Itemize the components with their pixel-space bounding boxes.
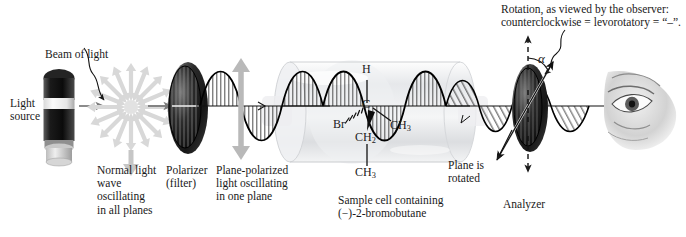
sample-cell-label: Sample cell containing (−)-2-bromobutane — [338, 194, 443, 220]
eye-icon — [604, 71, 676, 150]
atom-label-ch3-right: CH3 — [390, 119, 411, 135]
star-burst-icon — [87, 63, 175, 151]
polarizer-label: Polarizer (filter) — [166, 164, 208, 190]
plane-polarized-label: Plane-polarized light oscillating in one… — [216, 164, 288, 204]
normal-light-label: Normal light wave oscillating in all pla… — [97, 164, 156, 217]
plane-rotated-label: Plane is rotated — [448, 159, 484, 185]
plane-rotated-pointer — [497, 130, 512, 160]
ch2-text: CH — [355, 130, 372, 144]
polarizer-disc-icon — [168, 62, 208, 154]
lamp-icon — [44, 69, 75, 166]
ch3-right-sub: 3 — [407, 124, 411, 133]
analyzer-label: Analyzer — [503, 198, 545, 211]
ch3-right-text: CH — [390, 118, 407, 132]
rotation-note-pointer — [545, 30, 565, 74]
beam-of-light-label: Beam of light — [45, 48, 108, 61]
polarimeter-diagram: Beam of light Light source Normal light … — [0, 0, 686, 237]
atom-label-ch3-bottom: CH3 — [355, 166, 376, 182]
alpha-label: α — [538, 52, 545, 65]
ch3-bottom-text: CH — [355, 165, 372, 179]
atom-label-c: C — [362, 98, 370, 111]
rotation-note-label: Rotation, as viewed by the observer: cou… — [501, 3, 681, 29]
atom-label-ch2: CH2 — [355, 131, 376, 147]
light-source-label: Light source — [10, 97, 40, 123]
analyzer-disc-icon — [512, 64, 548, 152]
ch2-sub: 2 — [372, 136, 376, 145]
atom-label-br: Br — [333, 118, 345, 131]
atom-label-h: H — [362, 63, 371, 76]
ch3-bottom-sub: 3 — [372, 171, 376, 180]
